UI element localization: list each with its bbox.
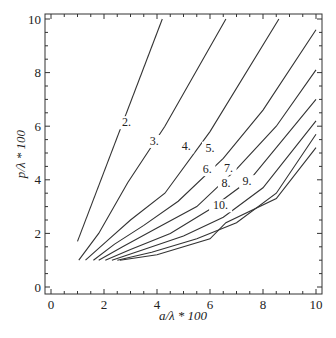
y-tick-label: 4 [35,172,42,187]
x-tick-label: 6 [207,297,214,312]
y-tick-label: 0 [35,280,42,295]
contour-label: 7. [224,161,233,175]
contour-label: 10. [213,198,228,212]
contour-label: 3. [150,134,159,148]
x-axis-label: a/λ * 100 [159,308,208,323]
contour-label: 9. [243,174,252,188]
plot-frame [45,14,322,294]
y-axis-label: p/λ * 100 [13,129,28,179]
y-tick-label: 2 [35,226,42,241]
axis-ticks: 02468100246810 [28,12,323,313]
contour-chart: 02468100246810 2.3.4.5.6.7.8.9.10. a/λ *… [0,0,336,338]
contour-label: 2. [122,115,131,129]
contour-lines [78,19,317,260]
contour-line [105,99,316,260]
contour-line [78,19,163,241]
contour-label: 8. [221,176,230,190]
x-tick-label: 0 [48,297,55,312]
contour-label: 6. [203,162,212,176]
y-tick-label: 10 [28,12,41,27]
y-tick-label: 8 [35,65,42,80]
x-tick-label: 8 [260,297,267,312]
contour-label: 4. [182,139,191,153]
y-tick-label: 6 [35,119,42,134]
x-tick-label: 2 [101,297,108,312]
contour-label: 5. [206,141,215,155]
x-tick-label: 10 [310,297,323,312]
